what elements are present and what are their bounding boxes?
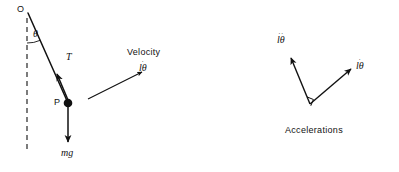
physics-diagram-figure: O θ T P mg Velocity lθ· lθ·· lθ· Acceler…	[0, 0, 399, 172]
pendulum-rod	[28, 13, 68, 103]
radial-acceleration-label: lθ·	[356, 61, 364, 71]
accelerations-caption: Accelerations	[285, 126, 343, 135]
velocity-vector-dot-accent: ·	[142, 59, 145, 66]
angle-label-theta: θ	[33, 29, 38, 39]
diagram-vector-canvas	[0, 0, 399, 172]
mass-point-label-p: P	[54, 98, 60, 107]
tangential-acceleration-label: lθ··	[277, 35, 285, 45]
tangential-acceleration-double-dot-accent: ··	[278, 31, 284, 38]
velocity-vector-label: lθ·	[139, 63, 147, 73]
angle-arc	[27, 40, 40, 43]
pivot-label-o: O	[17, 5, 24, 14]
radial-acceleration-arrow	[310, 69, 351, 104]
right-diagram-group	[291, 58, 351, 106]
left-diagram-group	[27, 13, 142, 153]
weight-label-mg: mg	[61, 148, 73, 158]
radial-acceleration-dot-accent: ·	[359, 57, 362, 64]
velocity-caption: Velocity	[127, 48, 160, 57]
tension-label-t: T	[66, 52, 72, 62]
velocity-vector-arrow	[88, 72, 142, 99]
